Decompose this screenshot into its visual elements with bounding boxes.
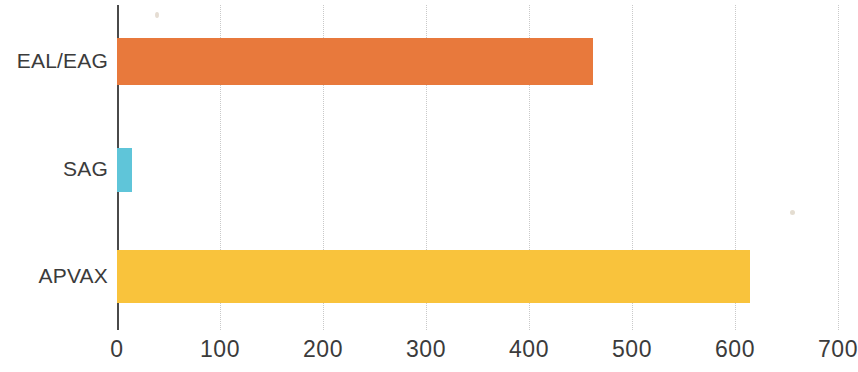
x-tick-label-0: 0 [110,336,123,363]
bar-fill [117,148,132,192]
y-axis-label-apvax: APVAX [0,264,108,288]
x-tick-label-300: 300 [406,336,446,363]
x-axis-labels: 0100200300400500600700 [117,336,838,372]
bar-fill [117,250,750,303]
y-axis-labels: EAL/EAGSAGAPVAX [0,5,108,330]
x-tick-label-500: 500 [612,336,652,363]
gridline-700 [838,5,839,330]
bar-chart: EAL/EAGSAGAPVAX 0100200300400500600700 [0,0,858,372]
x-tick-label-100: 100 [200,336,240,363]
bar-eal-eag [117,38,593,85]
y-axis-label-sag: SAG [0,157,108,181]
x-tick-label-700: 700 [818,336,858,363]
x-tick-label-600: 600 [715,336,755,363]
plot-area [117,5,838,330]
x-tick-label-200: 200 [303,336,343,363]
x-tick-label-400: 400 [509,336,549,363]
bar-sag [117,148,132,192]
bar-apvax [117,250,750,303]
y-axis-label-eal-eag: EAL/EAG [0,49,108,73]
bar-fill [117,38,593,85]
